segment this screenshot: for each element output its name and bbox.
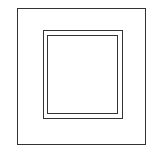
inner-frame-inner-line [47, 35, 118, 114]
